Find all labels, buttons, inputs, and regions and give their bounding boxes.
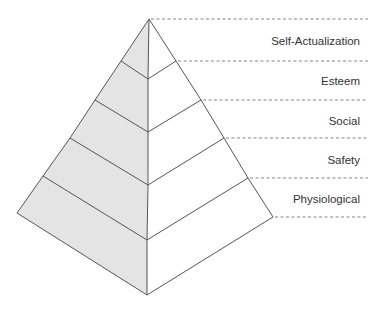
level-labels: Self-Actualization Esteem Social Safety …: [271, 35, 360, 205]
level-label-esteem: Esteem: [321, 75, 360, 87]
right-face: [147, 19, 273, 295]
pyramid-diagram: Self-Actualization Esteem Social Safety …: [0, 0, 382, 311]
level-label-social: Social: [329, 115, 360, 127]
level-label-safety: Safety: [327, 154, 360, 166]
pyramid-svg: Self-Actualization Esteem Social Safety …: [0, 0, 382, 311]
level-label-self-actualization: Self-Actualization: [271, 35, 360, 47]
level-label-physiological: Physiological: [293, 193, 360, 205]
pyramid-faces: [17, 19, 273, 295]
left-face: [17, 19, 149, 295]
